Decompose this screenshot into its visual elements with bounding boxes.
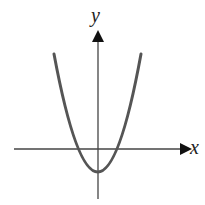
y-axis-arrow-icon xyxy=(92,30,104,42)
plot-area xyxy=(0,0,205,205)
y-axis-label: y xyxy=(91,5,100,25)
x-axis-label: x xyxy=(190,137,199,157)
parabola-graph: y x xyxy=(0,0,205,205)
